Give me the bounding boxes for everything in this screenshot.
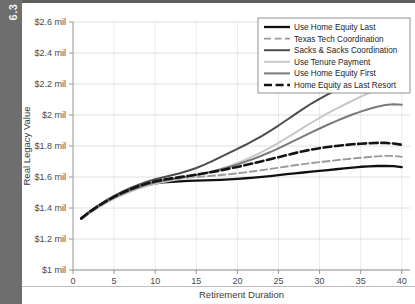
- y-tick-label: $1.6 mil: [34, 172, 66, 182]
- x-tick-label: 5: [112, 276, 117, 286]
- x-tick-label: 10: [150, 276, 160, 286]
- x-tick-label: 20: [232, 276, 242, 286]
- chart-legend[interactable]: Use Home Equity LastTexas Tech Coordinat…: [258, 18, 410, 93]
- x-axis-ticks: 0510152025303540: [70, 270, 406, 286]
- y-tick-label: $1.2 mil: [34, 234, 66, 244]
- y-tick-label: $1 mil: [42, 265, 66, 275]
- y-tick-label: $2 mil: [42, 110, 66, 120]
- legend-label: Use Tenure Payment: [294, 58, 371, 67]
- legend-label: Sacks & Sacks Coordination: [294, 46, 398, 55]
- y-axis-ticks: $1 mil$1.2 mil$1.4 mil$1.6 mil$1.8 mil$2…: [34, 17, 73, 275]
- line-chart: $1 mil$1.2 mil$1.4 mil$1.6 mil$1.8 mil$2…: [0, 0, 415, 304]
- y-tick-label: $2.4 mil: [34, 48, 66, 58]
- y-tick-label: $1.8 mil: [34, 141, 66, 151]
- x-tick-label: 0: [70, 276, 75, 286]
- y-tick-label: $2.2 mil: [34, 79, 66, 89]
- legend-label: Home Equity as Last Resort: [294, 81, 397, 90]
- series-line: [81, 143, 402, 218]
- x-tick-label: 35: [356, 276, 366, 286]
- legend-label: Use Home Equity Last: [294, 23, 376, 32]
- x-tick-label: 40: [397, 276, 407, 286]
- y-tick-label: $1.4 mil: [34, 203, 66, 213]
- x-tick-label: 25: [273, 276, 283, 286]
- legend-label: Use Home Equity First: [294, 69, 377, 78]
- x-tick-label: 15: [191, 276, 201, 286]
- figure-root: 6.3 $1 mil$1.2 mil$1.4 mil$1.6 mil$1.8 m…: [0, 0, 415, 304]
- legend-label: Texas Tech Coordination: [294, 35, 384, 44]
- x-tick-label: 30: [315, 276, 325, 286]
- series-line: [81, 84, 402, 219]
- y-tick-label: $2.6 mil: [34, 17, 66, 27]
- x-axis-title: Retirement Duration: [199, 289, 284, 300]
- y-axis-title: Real Legacy Value: [21, 106, 32, 185]
- chart-container: $1 mil$1.2 mil$1.4 mil$1.6 mil$1.8 mil$2…: [0, 0, 415, 304]
